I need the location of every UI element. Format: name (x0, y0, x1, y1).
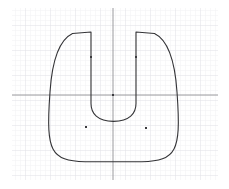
sketch-viewport[interactable] (0, 0, 229, 189)
points-svg (0, 0, 229, 189)
left-prong-point[interactable] (90, 56, 92, 58)
points-layer (0, 0, 229, 189)
right-prong-point[interactable] (135, 56, 137, 58)
origin-point[interactable] (112, 94, 114, 96)
lower-left-point[interactable] (85, 126, 87, 128)
lower-right-point[interactable] (145, 127, 147, 129)
